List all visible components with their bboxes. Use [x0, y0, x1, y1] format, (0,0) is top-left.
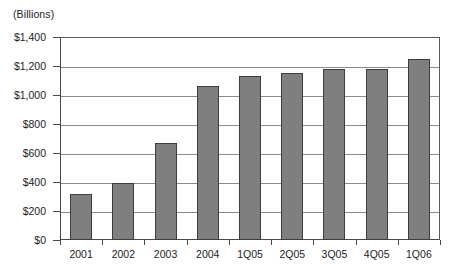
bar-slot	[144, 37, 186, 240]
y-axis-tick	[53, 66, 60, 67]
y-axis-tick	[53, 153, 60, 154]
x-axis-tick	[271, 240, 272, 245]
x-axis-tick-label: 2Q05	[279, 248, 305, 260]
y-axis-tick	[53, 37, 60, 38]
bar	[366, 69, 388, 240]
x-axis-tick-label: 4Q05	[364, 248, 390, 260]
x-axis: 20012002200320041Q052Q053Q054Q051Q06	[60, 248, 440, 268]
y-axis-tick	[53, 240, 60, 241]
bar-chart: (Billions) $0$200$400$600$800$1,000$1,20…	[0, 0, 455, 278]
y-axis-tick-label: $0	[34, 234, 46, 246]
x-axis-tick	[60, 240, 61, 245]
x-axis-tick	[229, 240, 230, 245]
x-axis-tick	[398, 240, 399, 245]
bar-slot	[356, 37, 398, 240]
x-axis-tick-label: 2003	[154, 248, 177, 260]
x-axis-tick	[144, 240, 145, 245]
bar-slot	[313, 37, 355, 240]
bar-slot	[271, 37, 313, 240]
bar-slot	[60, 37, 102, 240]
bar	[323, 69, 345, 240]
bar-slot	[102, 37, 144, 240]
x-axis-ticks	[60, 240, 440, 246]
bar-slot	[398, 37, 440, 240]
bar	[281, 73, 303, 240]
y-axis-tick	[53, 182, 60, 183]
y-axis-tick-label: $200	[23, 205, 46, 217]
x-axis-tick-label: 1Q05	[237, 248, 263, 260]
bar	[70, 194, 92, 240]
bar-slot	[229, 37, 271, 240]
bars-layer	[60, 37, 440, 240]
x-axis-tick	[356, 240, 357, 245]
x-axis-tick-label: 2002	[112, 248, 135, 260]
bar	[112, 183, 134, 240]
y-axis-tick-label: $800	[23, 118, 46, 130]
y-axis-tick-label: $1,200	[14, 60, 46, 72]
y-axis-tick	[53, 95, 60, 96]
bar	[197, 86, 219, 240]
bar	[408, 59, 430, 240]
x-axis-tick-label: 3Q05	[322, 248, 348, 260]
x-axis-tick	[440, 240, 441, 245]
y-axis: $0$200$400$600$800$1,000$1,200$1,400	[0, 0, 60, 278]
x-axis-tick-label: 2004	[196, 248, 219, 260]
x-axis-tick	[313, 240, 314, 245]
x-axis-tick	[102, 240, 103, 245]
bar	[155, 143, 177, 240]
y-axis-tick-label: $1,400	[14, 31, 46, 43]
y-axis-tick	[53, 124, 60, 125]
y-axis-tick-label: $1,000	[14, 89, 46, 101]
bar-slot	[187, 37, 229, 240]
x-axis-tick-label: 2001	[69, 248, 92, 260]
y-axis-tick-label: $600	[23, 147, 46, 159]
y-axis-tick	[53, 211, 60, 212]
y-axis-tick-label: $400	[23, 176, 46, 188]
x-axis-tick-label: 1Q06	[406, 248, 432, 260]
bar	[239, 76, 261, 240]
x-axis-tick	[187, 240, 188, 245]
